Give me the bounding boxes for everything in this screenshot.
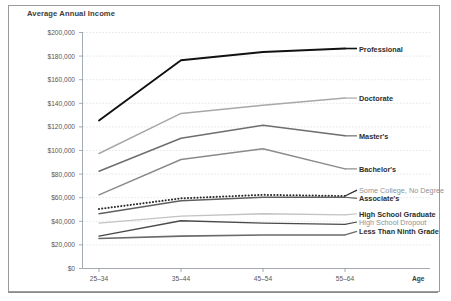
- x-axis-tick-label: 55–64: [315, 275, 375, 282]
- x-axis-tick-label: 25–34: [69, 275, 129, 282]
- y-axis-tick-label: $40,000: [11, 217, 75, 224]
- y-axis-tick-label: $180,000: [11, 52, 75, 59]
- series-label: Associate's: [359, 194, 399, 203]
- y-axis-tick-label: $0: [11, 265, 75, 272]
- x-axis-tick-label: 35–44: [151, 275, 211, 282]
- series-label: Bachelor's: [359, 164, 396, 173]
- series-label: High School Dropout: [359, 217, 426, 226]
- y-axis-tick-label: $140,000: [11, 99, 75, 106]
- series-label: Master's: [359, 131, 388, 140]
- y-axis-tick-label: $100,000: [11, 147, 75, 154]
- chart-title: Average Annual Income: [27, 9, 115, 18]
- caption-divider: [8, 292, 438, 293]
- y-axis-tick-label: $80,000: [11, 170, 75, 177]
- series-label: Doctorate: [359, 94, 393, 103]
- y-axis-tick-label: $20,000: [11, 241, 75, 248]
- series-label: Less Than Ninth Grade: [359, 227, 439, 236]
- y-axis-tick-label: $160,000: [11, 76, 75, 83]
- x-axis-title: Age: [412, 275, 424, 282]
- figure: Average Annual Income $0$20,000$40,000$6…: [0, 0, 451, 301]
- figure-caption: [40, 294, 420, 301]
- y-axis-tick-label: $200,000: [11, 29, 75, 36]
- y-axis-tick-label: $60,000: [11, 194, 75, 201]
- y-axis-tick-label: $120,000: [11, 123, 75, 130]
- series-label: Professional: [359, 44, 403, 53]
- x-axis-tick-label: 45–54: [233, 275, 293, 282]
